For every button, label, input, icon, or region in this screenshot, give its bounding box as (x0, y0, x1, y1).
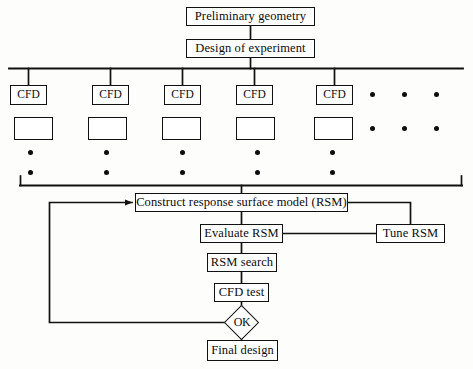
node-evaluate-rsm[interactable]: Evaluate RSM (200, 224, 283, 243)
node-cfd-4-label: CFD (243, 89, 266, 101)
node-tune-rsm[interactable]: Tune RSM (376, 224, 445, 243)
node-preliminary-geometry[interactable]: Preliminary geometry (186, 7, 315, 26)
node-result-box-5[interactable] (314, 117, 353, 140)
node-cfd-4[interactable]: CFD (236, 85, 273, 105)
node-rsm-search-label: RSM search (211, 256, 273, 269)
ellipsis-dot-result-row-3 (434, 126, 439, 131)
node-cfd-5[interactable]: CFD (316, 85, 353, 105)
ellipsis-dot-branch-2-lower (104, 170, 109, 175)
ellipsis-dot-branch-5-upper (330, 150, 335, 155)
ellipsis-dot-branch-3-upper (180, 150, 185, 155)
node-cfd-3-label: CFD (171, 89, 194, 101)
node-cfd-2-label: CFD (99, 89, 122, 101)
node-result-box-2[interactable] (88, 117, 127, 140)
ellipsis-dot-branch-1-lower (28, 170, 33, 175)
ellipsis-dot-branch-1-upper (28, 150, 33, 155)
node-construct-rsm[interactable]: Construct response surface model (RSM) (135, 193, 348, 212)
node-result-box-3[interactable] (162, 117, 201, 140)
node-preliminary-geometry-label: Preliminary geometry (195, 10, 306, 23)
ellipsis-dot-cfd-row-3 (434, 92, 439, 97)
node-cfd-1-label: CFD (17, 89, 40, 101)
decision-ok-label-wrap: OK (226, 314, 258, 330)
node-final-design-label: Final design (211, 344, 274, 357)
node-final-design[interactable]: Final design (207, 340, 278, 361)
ellipsis-dot-result-row-2 (402, 126, 407, 131)
ellipsis-dot-result-row-1 (370, 126, 375, 131)
node-cfd-test-label: CFD test (219, 286, 265, 299)
node-rsm-search[interactable]: RSM search (207, 253, 277, 272)
flowchart-diagram: Preliminary geometry Design of experimen… (0, 0, 473, 369)
node-result-box-4[interactable] (236, 117, 275, 140)
edge-ok-feedback-to-construct (50, 203, 231, 323)
ellipsis-dot-branch-4-upper (255, 150, 260, 155)
node-cfd-5-label: CFD (323, 89, 346, 101)
node-construct-rsm-label: Construct response surface model (RSM) (136, 196, 347, 209)
ellipsis-dot-branch-3-lower (180, 170, 185, 175)
edge-construct-to-tune (348, 203, 411, 225)
node-cfd-2[interactable]: CFD (92, 85, 129, 105)
ellipsis-dot-cfd-row-1 (370, 92, 375, 97)
node-cfd-1[interactable]: CFD (10, 85, 47, 105)
node-design-of-experiment[interactable]: Design of experiment (186, 39, 315, 58)
node-tune-rsm-label: Tune RSM (383, 227, 439, 240)
ellipsis-dot-cfd-row-2 (402, 92, 407, 97)
node-evaluate-rsm-label: Evaluate RSM (204, 227, 278, 240)
decision-ok-label: OK (234, 315, 251, 330)
node-cfd-test[interactable]: CFD test (214, 283, 269, 302)
ellipsis-dot-branch-2-upper (104, 150, 109, 155)
node-cfd-3[interactable]: CFD (164, 85, 201, 105)
node-result-box-1[interactable] (14, 117, 53, 140)
node-design-of-experiment-label: Design of experiment (195, 42, 305, 55)
ellipsis-dot-branch-4-lower (255, 170, 260, 175)
ellipsis-dot-branch-5-lower (330, 170, 335, 175)
